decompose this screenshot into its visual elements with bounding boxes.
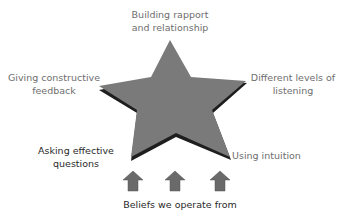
label-line: Beliefs we operate from (110, 199, 250, 212)
label-line: listening (245, 85, 338, 98)
label-line: Using intuition (232, 150, 312, 163)
label-line: Asking effective (30, 145, 122, 158)
label-line: questions (30, 158, 122, 171)
star-shape (99, 40, 246, 157)
label-using-intuition: Using intuition (232, 150, 312, 163)
label-constructive-feedback: Giving constructive feedback (2, 72, 106, 97)
up-arrow-icon (165, 171, 185, 191)
up-arrow-icon (210, 171, 230, 191)
label-listening-levels: Different levels of listening (245, 72, 338, 97)
label-effective-questions: Asking effective questions (30, 145, 122, 170)
label-line: and relationship (120, 22, 220, 35)
label-building-rapport: Building rapport and relationship (120, 9, 220, 34)
label-line: Different levels of (245, 72, 338, 85)
up-arrow-icon (123, 171, 143, 191)
label-line: feedback (2, 85, 106, 98)
label-beliefs: Beliefs we operate from (110, 199, 250, 212)
label-line: Building rapport (120, 9, 220, 22)
label-line: Giving constructive (2, 72, 106, 85)
